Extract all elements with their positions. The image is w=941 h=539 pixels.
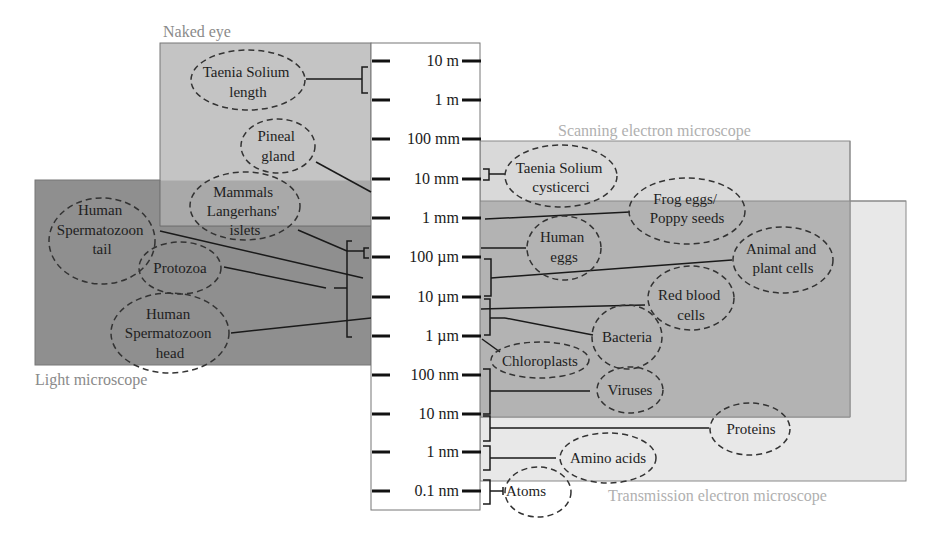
obj-chloroplasts: Chloroplasts xyxy=(502,353,578,369)
tick-label: 100 µm xyxy=(409,248,459,266)
label-naked-eye: Naked eye xyxy=(163,23,231,41)
scale-ruler xyxy=(371,43,480,510)
obj-proteins: Proteins xyxy=(726,421,775,437)
tick-label: 1 m xyxy=(435,91,460,108)
tick-label: 10 µm xyxy=(417,288,459,306)
label-light-microscope: Light microscope xyxy=(35,371,147,389)
obj-amino-acids: Amino acids xyxy=(570,450,646,466)
obj-protozoa: Protozoa xyxy=(153,260,207,276)
tick-label: 1 nm xyxy=(427,443,460,460)
tick-label: 1 mm xyxy=(422,209,459,226)
tick-label: 0.1 nm xyxy=(415,482,460,499)
tick-label: 100 nm xyxy=(411,366,460,383)
region-sem-tem-overlap xyxy=(480,201,850,417)
obj-atoms: Atoms xyxy=(506,483,546,499)
tick-label: 100 mm xyxy=(407,130,460,147)
obj-viruses: Viruses xyxy=(608,382,653,398)
tick-label: 10 mm xyxy=(414,170,459,187)
label-tem: Transmission electron microscope xyxy=(608,487,827,505)
tick-label: 10 nm xyxy=(419,405,460,422)
obj-bacteria: Bacteria xyxy=(602,329,652,345)
tick-label: 10 m xyxy=(427,52,460,69)
label-sem: Scanning electron microscope xyxy=(558,122,751,140)
scale-diagram: Naked eye Light microscope Scanning elec… xyxy=(0,0,941,539)
tick-label: 1 µm xyxy=(425,327,459,345)
